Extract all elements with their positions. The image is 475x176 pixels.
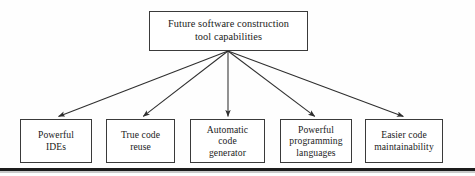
diagram-canvas: Future software construction tool capabi…: [0, 0, 475, 176]
leaf-node-easier-code-maintainability: Easier code maintainability: [365, 119, 443, 163]
connector-arrow-3: [228, 51, 315, 116]
leaf-node-automatic-code-generator: Automatic code generator: [190, 119, 265, 163]
leaf-node-true-code-reuse: True code reuse: [106, 119, 175, 163]
leaf-node-powerful-ides: Powerful IDEs: [20, 119, 92, 163]
root-node-label: Future software construction tool capabi…: [168, 18, 289, 43]
leaf-node-label: Easier code maintainability: [374, 129, 434, 152]
leaf-node-powerful-programming-languages: Powerful programming languages: [280, 119, 352, 163]
root-node-box: Future software construction tool capabi…: [149, 11, 308, 51]
leaf-node-label: Powerful IDEs: [38, 129, 74, 152]
leaf-node-label: True code reuse: [121, 129, 160, 152]
leaf-node-label: Powerful programming languages: [289, 124, 342, 159]
connector-arrow-4: [228, 51, 403, 116]
leaf-node-label: Automatic code generator: [207, 124, 248, 159]
connector-arrow-0: [59, 51, 229, 116]
page-bottom-fill: [0, 173, 475, 176]
connector-arrow-1: [143, 51, 228, 116]
